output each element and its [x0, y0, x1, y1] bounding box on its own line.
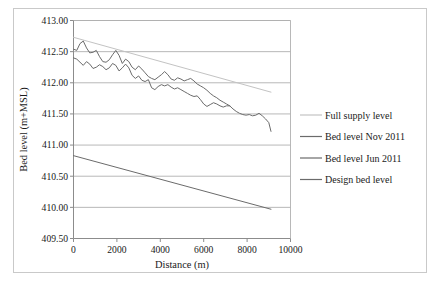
legend-label-2: Bed level Jun 2011 — [325, 153, 402, 164]
x-axis: 0200040006000800010000 — [71, 239, 303, 255]
y-tick-label: 410.00 — [42, 202, 69, 213]
y-axis-title: Bed level (m+MSL) — [18, 87, 30, 171]
x-tick-label: 10000 — [279, 244, 303, 255]
x-axis-title: Distance (m) — [155, 259, 209, 271]
line-chart: 409.50410.00410.50411.00411.50412.00412.… — [0, 0, 441, 286]
x-tick-label: 6000 — [194, 244, 213, 255]
x-tick-label: 8000 — [238, 244, 257, 255]
legend-label-1: Bed level Nov 2011 — [325, 131, 405, 142]
y-axis: 409.50410.00410.50411.00411.50412.00412.… — [42, 15, 74, 244]
x-tick-label: 2000 — [107, 244, 126, 255]
y-tick-label: 409.50 — [42, 233, 69, 244]
y-tick-label: 412.50 — [42, 46, 69, 57]
legend: Full supply levelBed level Nov 2011Bed l… — [300, 110, 405, 186]
chart-figure: 409.50410.00410.50411.00411.50412.00412.… — [0, 0, 441, 286]
y-tick-label: 410.50 — [42, 171, 69, 182]
legend-label-0: Full supply level — [325, 110, 392, 121]
y-tick-label: 412.00 — [42, 77, 69, 88]
x-tick-label: 4000 — [151, 244, 170, 255]
y-tick-label: 413.00 — [42, 15, 69, 26]
x-tick-label: 0 — [71, 244, 76, 255]
y-tick-label: 411.00 — [42, 139, 68, 150]
y-tick-label: 411.50 — [42, 108, 68, 119]
legend-label-3: Design bed level — [325, 174, 392, 185]
